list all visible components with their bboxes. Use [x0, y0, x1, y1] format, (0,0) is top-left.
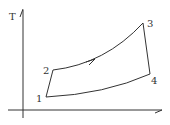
point-label-2: 2: [43, 66, 49, 76]
ts-diagram: T 1 2 3 4: [0, 0, 170, 125]
point-label-4: 4: [151, 76, 157, 86]
process-2-3: [53, 23, 143, 70]
point-label-3: 3: [147, 19, 153, 29]
process-3-4: [143, 23, 150, 74]
diagram-canvas: [0, 0, 170, 125]
point-label-1: 1: [36, 94, 42, 104]
y-axis-label: T: [9, 12, 16, 22]
process-4-1: [46, 74, 150, 97]
